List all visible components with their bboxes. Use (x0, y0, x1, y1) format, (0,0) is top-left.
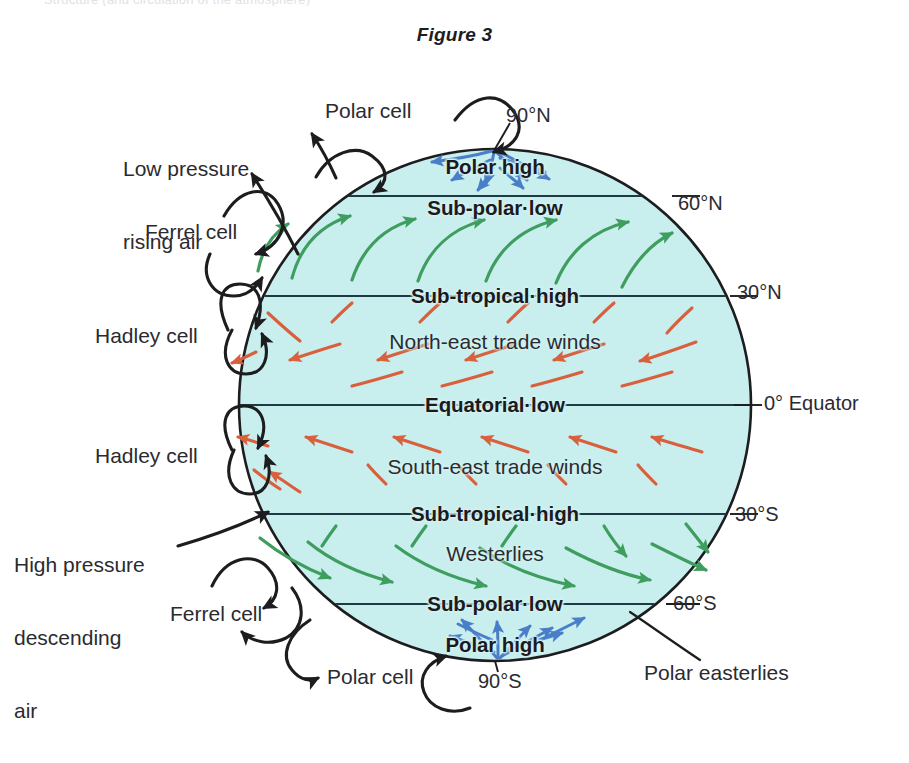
annotation-line: Low pressure (123, 157, 249, 181)
lat-label-90n: 90°N (506, 104, 551, 127)
annotation-hadley-cell-south: Hadley cell (95, 444, 198, 468)
wind-westerlies: Westerlies (446, 542, 544, 566)
annotation-line: High pressure (14, 553, 145, 577)
polar-easterlies-pointer (630, 612, 700, 660)
belt-polar-high-south: Polar high (445, 633, 544, 657)
polar-cell-south-loop-lower (422, 656, 470, 711)
figure-canvas: Structure (and circulation of the atmosp… (0, 0, 909, 763)
wind-north-east-trade-winds: North-east trade winds (389, 330, 600, 354)
polar-cell-south-loop (286, 620, 318, 680)
belt-sub-polar-low-north: Sub-polar·low (427, 196, 562, 220)
polar-cell-north-arrow-up (312, 134, 336, 178)
annotation-low-pressure-rising-air: Low pressure rising air (123, 108, 249, 303)
lat-label-60n: 60°N (678, 192, 723, 215)
lat-label-90s: 90°S (478, 670, 522, 693)
annotation-hadley-cell-north: Hadley cell (95, 324, 198, 348)
lat-label-equator: 0° Equator (764, 392, 859, 415)
annotation-polar-easterlies: Polar easterlies (644, 661, 789, 685)
annotation-ferrel-cell-south: Ferrel cell (170, 602, 262, 626)
annotation-high-pressure-descending-air: High pressure descending air (14, 504, 145, 763)
high-pressure-descending-arrow (178, 512, 268, 546)
lat-label-60s: 60°S (673, 592, 717, 615)
wind-south-east-trade-winds: South-east trade winds (388, 455, 603, 479)
belt-sub-polar-low-south: Sub-polar·low (427, 592, 562, 616)
lat-label-30s: 30°S (735, 503, 779, 526)
annotation-line: air (14, 699, 145, 723)
annotation-ferrel-cell-north: Ferrel cell (145, 220, 237, 244)
lat-label-30n: 30°N (737, 281, 782, 304)
annotation-polar-cell-south: Polar cell (327, 665, 413, 689)
annotation-line: descending (14, 626, 145, 650)
ferrel-cell-south-loop (212, 559, 277, 608)
annotation-polar-cell-north: Polar cell (325, 99, 411, 123)
belt-polar-high-north: Polar high (445, 155, 544, 179)
belt-sub-tropical-high-south: Sub-tropical·high (411, 502, 579, 526)
belt-sub-tropical-high-north: Sub-tropical·high (411, 284, 579, 308)
belt-equatorial-low: Equatorial·low (425, 393, 565, 417)
